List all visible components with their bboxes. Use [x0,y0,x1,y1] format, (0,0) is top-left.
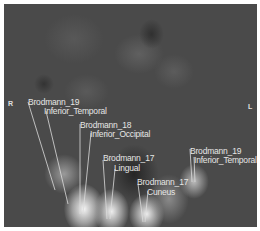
brain-scan-image: R L Brodmann_19 Inferior_Temporal Brodma… [4,4,257,227]
label-region: Cuneus [147,188,175,197]
label-region: Inferior_Temporal [44,107,107,116]
label-area: Brodmann_17 [103,154,154,163]
left-orientation-marker: L [248,103,252,110]
label-region: Lingual [114,164,140,173]
label-region: Inferior_Occipital [90,130,150,139]
right-orientation-marker: R [8,100,13,107]
leader-lines [4,4,257,227]
label-region: Inferior_Temporal [194,156,257,165]
label-area: Brodmann_17 [137,178,188,187]
